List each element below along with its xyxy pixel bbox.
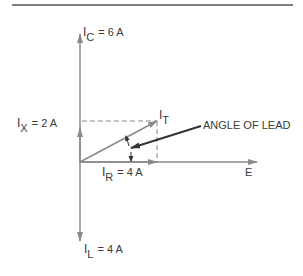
phasor-diagram xyxy=(0,0,303,276)
ir-value: = 4 A xyxy=(117,166,142,178)
e-label: E xyxy=(245,167,252,178)
it-subscript: T xyxy=(162,114,169,126)
it-label: IT xyxy=(159,109,173,121)
ic-label: IC= 6 A xyxy=(83,26,124,38)
il-value: = 4 A xyxy=(97,243,122,255)
ic-value: = 6 A xyxy=(98,26,123,38)
ir-label: IR= 4 A xyxy=(102,166,143,178)
it-vector xyxy=(80,121,157,162)
ix-subscript: X xyxy=(20,122,27,134)
ic-subscript: C xyxy=(86,31,94,43)
angle-of-lead-label: ANGLE OF LEAD xyxy=(203,120,290,131)
il-subscript: L xyxy=(87,248,93,260)
il-label: IL= 4 A xyxy=(84,243,123,255)
ix-value: = 2 A xyxy=(32,117,57,129)
ir-subscript: R xyxy=(105,171,113,183)
ix-label: IX= 2 A xyxy=(17,117,57,129)
